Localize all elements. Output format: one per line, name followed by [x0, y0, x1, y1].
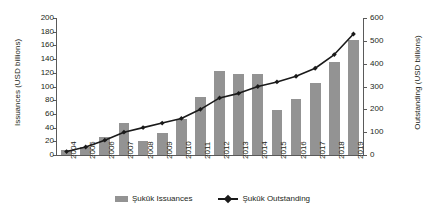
right-tick-label: 500	[370, 37, 410, 45]
right-tick-label: 0	[370, 151, 410, 159]
x-tick-label: 2017	[319, 141, 327, 159]
x-tick-label: 2005	[89, 141, 97, 159]
right-tick-label: 300	[370, 83, 410, 91]
right-tick	[364, 18, 367, 19]
right-tick-label: 100	[370, 128, 410, 136]
line-marker	[255, 84, 260, 89]
right-tick	[364, 109, 367, 110]
left-tick-label: 80	[14, 96, 54, 104]
line-series	[57, 18, 363, 156]
left-tick-label: 180	[14, 28, 54, 36]
legend-label-issuances: Şukūk Issuances	[132, 194, 192, 203]
line-marker	[122, 130, 127, 135]
line-marker	[160, 121, 165, 126]
legend-label-outstanding: Şukūk Outstanding	[242, 194, 310, 203]
line-diamond-icon	[218, 195, 238, 202]
x-tick-label: 2004	[70, 141, 78, 159]
left-tick-label: 0	[14, 151, 54, 159]
right-tick	[364, 64, 367, 65]
x-tick-label: 2016	[300, 141, 308, 159]
chart-legend: Şukūk Issuances Şukūk Outstanding	[0, 194, 425, 203]
right-tick	[364, 132, 367, 133]
line-marker	[275, 80, 280, 85]
left-tick-label: 100	[14, 83, 54, 91]
left-tick-label: 20	[14, 137, 54, 145]
line-marker	[236, 91, 241, 96]
chart-figure: Issuances (USD billions) Outstanding (US…	[0, 0, 425, 216]
legend-item-issuances: Şukūk Issuances	[115, 194, 192, 203]
right-tick-label: 600	[370, 14, 410, 22]
x-tick-label: 2018	[338, 141, 346, 159]
right-tick-label: 400	[370, 60, 410, 68]
left-tick-label: 160	[14, 41, 54, 49]
left-tick-label: 120	[14, 69, 54, 77]
left-tick-label: 140	[14, 55, 54, 63]
right-tick-label: 200	[370, 105, 410, 113]
right-tick	[364, 41, 367, 42]
x-tick-label: 2007	[127, 141, 135, 159]
x-tick-label: 2006	[108, 141, 116, 159]
plot-area: 020406080100120140160180200 010020030040…	[57, 18, 363, 155]
x-tick-label: 2015	[280, 141, 288, 159]
outstanding-markers	[64, 32, 356, 154]
bar-swatch-icon	[115, 196, 128, 202]
x-tick-label: 2013	[242, 141, 250, 159]
right-tick	[364, 87, 367, 88]
line-marker	[141, 125, 146, 130]
x-tick-label: 2014	[261, 141, 269, 159]
line-marker	[294, 74, 299, 79]
x-tick-label: 2008	[147, 141, 155, 159]
x-tick-label: 2019	[357, 141, 365, 159]
x-tick-label: 2012	[223, 141, 231, 159]
left-tick-label: 40	[14, 124, 54, 132]
x-tick-label: 2010	[185, 141, 193, 159]
left-tick-label: 60	[14, 110, 54, 118]
outstanding-line	[67, 34, 354, 152]
legend-item-outstanding: Şukūk Outstanding	[218, 194, 310, 203]
x-tick-label: 2011	[204, 142, 212, 159]
right-axis-title: Outstanding (USD billions)	[413, 18, 422, 148]
left-tick-label: 200	[14, 14, 54, 22]
x-tick-label: 2009	[166, 141, 174, 159]
